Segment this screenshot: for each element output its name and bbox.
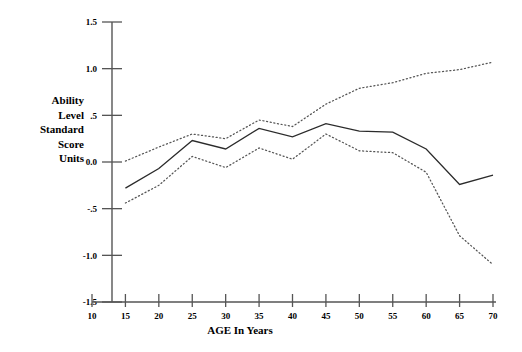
x-tick-label: 30 bbox=[221, 311, 231, 321]
x-tick-label: 60 bbox=[422, 311, 432, 321]
chart-background bbox=[0, 0, 522, 352]
x-tick-label: 35 bbox=[255, 311, 265, 321]
x-tick-label: 45 bbox=[321, 311, 331, 321]
x-tick-label: 70 bbox=[489, 311, 499, 321]
chart-container: 1.51.0.50.0-.5-1.0-1.5 10152025303540455… bbox=[0, 0, 522, 352]
x-tick-label: 25 bbox=[188, 311, 198, 321]
y-axis-title-line: Score bbox=[58, 138, 84, 150]
y-axis-title-line: Units bbox=[59, 152, 85, 164]
x-tick-label: 20 bbox=[154, 311, 164, 321]
x-tick-label: 50 bbox=[355, 311, 365, 321]
y-tick-label: -1.0 bbox=[83, 251, 98, 261]
x-tick-label: 55 bbox=[388, 311, 398, 321]
y-axis-title-line: Standard bbox=[40, 123, 84, 135]
y-tick-label: 1.5 bbox=[86, 17, 98, 27]
x-tick-label: 40 bbox=[288, 311, 298, 321]
x-tick-label: 10 bbox=[88, 311, 98, 321]
x-tick-label: 65 bbox=[455, 311, 465, 321]
y-tick-label: 1.0 bbox=[86, 64, 98, 74]
y-axis-title-line: Level bbox=[58, 109, 84, 121]
x-axis-title-label: AGE In Years bbox=[207, 324, 273, 336]
ability-by-age-line-chart: 1.51.0.50.0-.5-1.0-1.5 10152025303540455… bbox=[0, 0, 522, 352]
x-tick-label: 15 bbox=[121, 311, 131, 321]
y-axis-title-line: Ability bbox=[52, 94, 85, 106]
y-tick-label: -.5 bbox=[87, 204, 97, 214]
y-tick-label: .5 bbox=[90, 111, 97, 121]
y-tick-label: 0.0 bbox=[86, 157, 98, 167]
